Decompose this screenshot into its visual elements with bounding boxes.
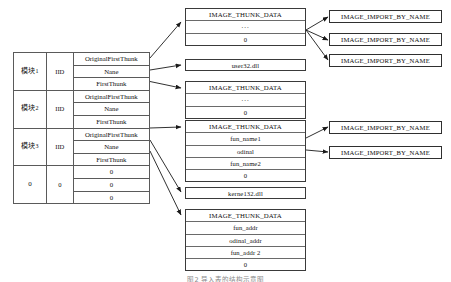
field-original-first-thunk: OriginalFirstThunk bbox=[73, 90, 149, 103]
module-cell: 模块1 bbox=[14, 53, 47, 91]
thunk-row-terminator: 0 bbox=[186, 170, 305, 181]
table-row: 模块1 IID OriginalFirstThunk bbox=[14, 53, 150, 66]
thunk-header: IMAGE_THUNK_DATA bbox=[186, 210, 305, 222]
iid-cell: 0 bbox=[46, 166, 73, 204]
field-name: Nane bbox=[73, 141, 149, 154]
thunk-row-fun-name1: fun_name1 bbox=[186, 133, 305, 145]
module-cell: 模块2 bbox=[14, 90, 47, 128]
import-by-name-box-4: IMAGE_IMPORT_BY_NAME bbox=[329, 121, 442, 134]
field-first-thunk: FirstThunk bbox=[73, 115, 149, 128]
import-descriptor-table: 模块1 IID OriginalFirstThunk Nane FirstThu… bbox=[13, 52, 150, 204]
iid-cell: IID bbox=[46, 128, 73, 166]
table-row: 0 0 0 bbox=[14, 166, 150, 179]
thunk-row-odinal-addr: odinal_addr bbox=[186, 235, 305, 247]
module-label: 模块 bbox=[21, 142, 35, 150]
thunk-block-names: IMAGE_THUNK_DATA fun_name1 odinal fun_na… bbox=[185, 120, 306, 182]
thunk-block-top: IMAGE_THUNK_DATA ... 0 bbox=[185, 8, 306, 46]
thunk-row-ellipsis: ... bbox=[186, 94, 305, 106]
thunk-header: IMAGE_THUNK_DATA bbox=[186, 9, 305, 21]
field-first-thunk: FirstThunk bbox=[73, 78, 149, 91]
table-row: 模块3 IID OriginalFirstThunk bbox=[14, 128, 150, 141]
diagram-canvas: 模块1 IID OriginalFirstThunk Nane FirstThu… bbox=[0, 0, 451, 282]
thunk-row-terminator: 0 bbox=[186, 107, 305, 118]
field-original-first-thunk: OriginalFirstThunk bbox=[73, 53, 149, 66]
thunk-header: IMAGE_THUNK_DATA bbox=[186, 121, 305, 133]
thunk-row-ellipsis: ... bbox=[186, 21, 305, 33]
import-by-name-box-2: IMAGE_IMPORT_BY_NAME bbox=[329, 33, 442, 46]
thunk-row-odinal: odinal bbox=[186, 146, 305, 158]
field-zero: 0 bbox=[73, 166, 149, 179]
thunk-row-terminator: 0 bbox=[186, 259, 305, 270]
thunk-row-fun-addr2: fun_addr 2 bbox=[186, 247, 305, 259]
field-name: Nane bbox=[73, 103, 149, 116]
field-zero: 0 bbox=[73, 178, 149, 191]
thunk-row-fun-name2: fun_name2 bbox=[186, 158, 305, 170]
dll-name-box-kernel32: kerne132.dll bbox=[185, 187, 306, 199]
module-index: 2 bbox=[35, 105, 38, 111]
dll-name-box-user32: user32.dll bbox=[185, 59, 306, 71]
module-index: 1 bbox=[35, 68, 38, 74]
import-by-name-box-5: IMAGE_IMPORT_BY_NAME bbox=[329, 146, 442, 159]
field-zero: 0 bbox=[73, 191, 149, 204]
table-row: 模块2 IID OriginalFirstThunk bbox=[14, 90, 150, 103]
field-name: Nane bbox=[73, 65, 149, 78]
thunk-row-terminator: 0 bbox=[186, 34, 305, 45]
module-index: 3 bbox=[35, 143, 38, 149]
thunk-row-fun-addr: fun_addr bbox=[186, 222, 305, 234]
import-by-name-box-3: IMAGE_IMPORT_BY_NAME bbox=[329, 54, 442, 67]
import-by-name-box-1: IMAGE_IMPORT_BY_NAME bbox=[329, 10, 442, 23]
field-first-thunk: FirstThunk bbox=[73, 153, 149, 166]
module-cell: 模块3 bbox=[14, 128, 47, 166]
iid-cell: IID bbox=[46, 53, 73, 91]
thunk-header: IMAGE_THUNK_DATA bbox=[186, 82, 305, 94]
field-original-first-thunk: OriginalFirstThunk bbox=[73, 128, 149, 141]
thunk-block-addresses: IMAGE_THUNK_DATA fun_addr odinal_addr fu… bbox=[185, 209, 306, 271]
module-cell: 0 bbox=[14, 166, 47, 204]
thunk-block-middle: IMAGE_THUNK_DATA ... 0 bbox=[185, 81, 306, 119]
module-label: 模块 bbox=[21, 104, 35, 112]
figure-caption: 图2 导入表的结构示意图 bbox=[0, 274, 451, 282]
module-label: 模块 bbox=[21, 67, 35, 75]
iid-cell: IID bbox=[46, 90, 73, 128]
